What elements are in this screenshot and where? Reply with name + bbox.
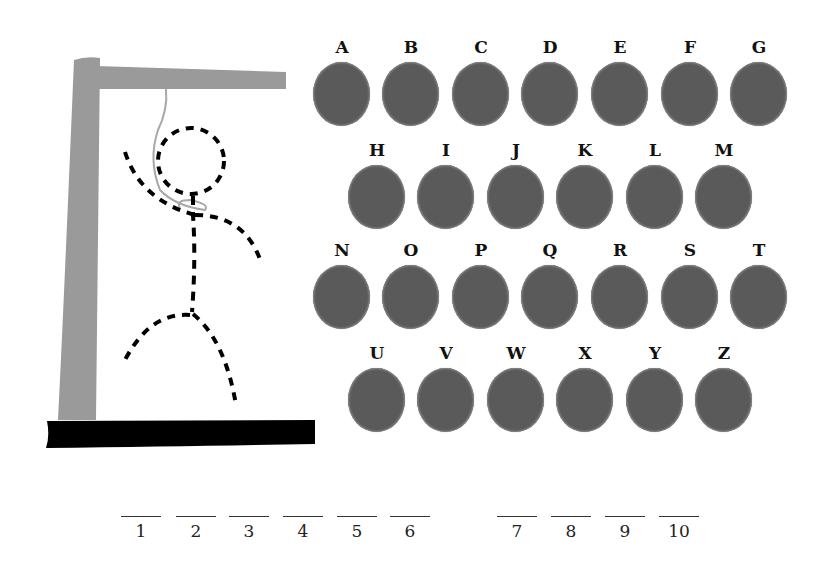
letter-button-e[interactable]: E bbox=[591, 37, 649, 127]
slot-underline bbox=[283, 516, 323, 517]
word-slot-4: 4 bbox=[283, 516, 323, 546]
slot-underline bbox=[121, 516, 161, 517]
slot-underline bbox=[229, 516, 269, 517]
letter-button-w[interactable]: W bbox=[487, 343, 545, 433]
letter-button-i[interactable]: I bbox=[417, 140, 475, 230]
letter-disc[interactable] bbox=[730, 62, 787, 126]
letter-button-a[interactable]: A bbox=[313, 37, 371, 127]
letter-label: S bbox=[661, 240, 719, 260]
letter-disc[interactable] bbox=[487, 368, 544, 432]
letter-label: D bbox=[521, 37, 579, 57]
letter-label: X bbox=[556, 343, 614, 363]
word-slot-1: 1 bbox=[121, 516, 161, 546]
slot-underline bbox=[337, 516, 377, 517]
letter-button-m[interactable]: M bbox=[695, 140, 753, 230]
word-slot-6: 6 bbox=[390, 516, 430, 546]
letter-button-s[interactable]: S bbox=[661, 240, 719, 330]
letter-button-u[interactable]: U bbox=[348, 343, 406, 433]
letter-disc[interactable] bbox=[452, 62, 509, 126]
letter-disc[interactable] bbox=[695, 165, 752, 229]
slot-number: 10 bbox=[659, 521, 699, 541]
letter-disc[interactable] bbox=[661, 265, 718, 329]
letter-label: V bbox=[417, 343, 475, 363]
letter-button-f[interactable]: F bbox=[661, 37, 719, 127]
letter-button-q[interactable]: Q bbox=[521, 240, 579, 330]
letter-disc[interactable] bbox=[417, 165, 474, 229]
letter-label: J bbox=[487, 140, 545, 160]
letter-label: O bbox=[382, 240, 440, 260]
slot-number: 3 bbox=[229, 521, 269, 541]
letter-label: N bbox=[313, 240, 371, 260]
letter-button-y[interactable]: Y bbox=[626, 343, 684, 433]
letter-label: Q bbox=[521, 240, 579, 260]
figure-left-leg bbox=[125, 315, 190, 360]
letter-button-p[interactable]: P bbox=[452, 240, 510, 330]
letter-button-r[interactable]: R bbox=[591, 240, 649, 330]
letter-disc[interactable] bbox=[348, 368, 405, 432]
letter-label: L bbox=[626, 140, 684, 160]
letter-label: U bbox=[348, 343, 406, 363]
letter-button-x[interactable]: X bbox=[556, 343, 614, 433]
letter-label: Y bbox=[626, 343, 684, 363]
word-slot-10: 10 bbox=[659, 516, 699, 546]
word-slot-5: 5 bbox=[337, 516, 377, 546]
letter-disc[interactable] bbox=[452, 265, 509, 329]
letter-disc[interactable] bbox=[695, 368, 752, 432]
letter-disc[interactable] bbox=[626, 368, 683, 432]
letter-disc[interactable] bbox=[730, 265, 787, 329]
letter-label: I bbox=[417, 140, 475, 160]
letter-button-d[interactable]: D bbox=[521, 37, 579, 127]
letter-button-h[interactable]: H bbox=[348, 140, 406, 230]
letter-label: G bbox=[730, 37, 788, 57]
letter-label: E bbox=[591, 37, 649, 57]
letter-button-z[interactable]: Z bbox=[695, 343, 753, 433]
gallows-drawing bbox=[0, 0, 340, 470]
letter-label: Z bbox=[695, 343, 753, 363]
letter-label: F bbox=[661, 37, 719, 57]
letter-label: T bbox=[730, 240, 788, 260]
word-slot-3: 3 bbox=[229, 516, 269, 546]
letter-disc[interactable] bbox=[417, 368, 474, 432]
letter-button-o[interactable]: O bbox=[382, 240, 440, 330]
letter-disc[interactable] bbox=[313, 265, 370, 329]
letter-disc[interactable] bbox=[313, 62, 370, 126]
letter-button-t[interactable]: T bbox=[730, 240, 788, 330]
letter-button-c[interactable]: C bbox=[452, 37, 510, 127]
letter-button-n[interactable]: N bbox=[313, 240, 371, 330]
letter-label: B bbox=[382, 37, 440, 57]
gallows-beam bbox=[96, 66, 286, 89]
letter-disc[interactable] bbox=[487, 165, 544, 229]
letter-button-j[interactable]: J bbox=[487, 140, 545, 230]
letter-disc[interactable] bbox=[521, 265, 578, 329]
letter-button-l[interactable]: L bbox=[626, 140, 684, 230]
letter-disc[interactable] bbox=[382, 62, 439, 126]
letter-disc[interactable] bbox=[348, 165, 405, 229]
slot-underline bbox=[390, 516, 430, 517]
gallows-base bbox=[46, 420, 315, 448]
letter-label: M bbox=[695, 140, 753, 160]
slot-underline bbox=[497, 516, 537, 517]
slot-number: 5 bbox=[337, 521, 377, 541]
letter-disc[interactable] bbox=[591, 265, 648, 329]
word-slot-7: 7 bbox=[497, 516, 537, 546]
slot-number: 7 bbox=[497, 521, 537, 541]
letter-disc[interactable] bbox=[556, 165, 613, 229]
letter-label: K bbox=[556, 140, 614, 160]
letter-disc[interactable] bbox=[591, 62, 648, 126]
letter-label: C bbox=[452, 37, 510, 57]
slot-underline bbox=[551, 516, 591, 517]
slot-number: 8 bbox=[551, 521, 591, 541]
figure-right-leg bbox=[193, 314, 236, 405]
letter-disc[interactable] bbox=[661, 62, 718, 126]
letter-disc[interactable] bbox=[382, 265, 439, 329]
letter-disc[interactable] bbox=[521, 62, 578, 126]
letter-button-k[interactable]: K bbox=[556, 140, 614, 230]
slot-number: 9 bbox=[605, 521, 645, 541]
letter-disc[interactable] bbox=[556, 368, 613, 432]
letter-button-b[interactable]: B bbox=[382, 37, 440, 127]
letter-disc[interactable] bbox=[626, 165, 683, 229]
letter-label: R bbox=[591, 240, 649, 260]
letter-button-v[interactable]: V bbox=[417, 343, 475, 433]
letter-button-g[interactable]: G bbox=[730, 37, 788, 127]
slot-number: 2 bbox=[176, 521, 216, 541]
